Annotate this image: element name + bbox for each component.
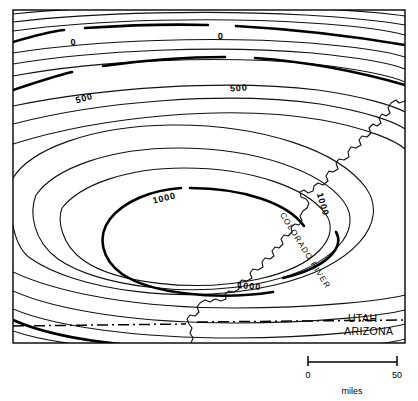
map-contents: 0 0 500 500 1000 1000 1000 COLORADO RIVE… [11, 6, 405, 360]
contour-map-figure: 0 0 500 500 1000 1000 1000 COLORADO RIVE… [0, 0, 418, 401]
scale-bar-min-label: 0 [305, 370, 310, 380]
contour-label-0-right: 0 [218, 31, 224, 41]
state-label-utah: UTAH [348, 312, 377, 324]
scale-bar-max-label: 50 [392, 370, 402, 380]
contour-label-1000-lower: 1000 [237, 280, 261, 292]
map-canvas: 0 0 500 500 1000 1000 1000 COLORADO RIVE… [0, 0, 418, 401]
state-label-arizona: ARIZONA [344, 325, 393, 337]
contour-label-500-right: 500 [230, 82, 248, 93]
scale-bar-units-label: miles [341, 386, 363, 396]
